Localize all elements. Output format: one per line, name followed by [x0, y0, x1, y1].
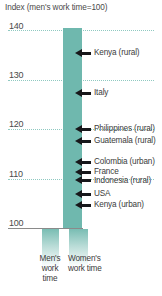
arrow-shaft — [81, 193, 91, 196]
pointer-guatemala-rural — [75, 137, 91, 145]
pointer-usa — [75, 190, 91, 198]
annotation-label-indonesia-rural: Indonesia (rural) — [94, 176, 151, 185]
caption-line: Men's — [34, 254, 66, 264]
work-time-index-chart: Index (men's work time=100) 140 130 120 … — [0, 0, 162, 296]
mens-work-time-caption: Men's work time — [34, 254, 66, 284]
annotation-label-kenya-rural: Kenya (rural) — [94, 48, 139, 57]
tick-label-120: 120 — [9, 119, 23, 129]
arrow-shaft — [81, 140, 91, 143]
pointer-kenya-rural — [75, 49, 91, 57]
tick-label-130: 130 — [9, 70, 23, 80]
arrow-shaft — [81, 161, 91, 164]
tick-label-140: 140 — [9, 21, 23, 31]
annotation-label-colombia-urban: Colombia (urban) — [94, 157, 155, 166]
womens-work-time-caption: Women's work time — [68, 254, 122, 274]
arrow-shaft — [81, 128, 91, 131]
caption-line: Women's — [68, 254, 122, 264]
annotation-label-usa: USA — [94, 189, 110, 198]
caption-line: time — [34, 274, 66, 284]
annotation-label-kenya-urban: Kenya (urban) — [94, 200, 144, 209]
arrow-shaft — [81, 52, 91, 55]
arrow-shaft — [81, 179, 91, 182]
arrow-shaft — [81, 204, 91, 207]
pointer-philippines-rural — [75, 125, 91, 133]
arrow-shaft — [81, 171, 91, 174]
chart-title: Index (men's work time=100) — [5, 3, 107, 12]
pointer-italy — [75, 89, 91, 97]
tick-label-100: 100 — [9, 218, 23, 228]
annotation-label-guatemala-rural: Guatemala (rural) — [94, 136, 156, 145]
annotation-label-france: France — [94, 167, 119, 176]
annotation-label-italy: Italy — [94, 88, 108, 97]
caption-line: work — [34, 264, 66, 274]
pointer-kenya-urban — [75, 201, 91, 209]
annotation-label-philippines-rural: Philippines (rural) — [94, 124, 155, 133]
caption-line: work time — [68, 264, 122, 274]
tick-label-110: 110 — [9, 169, 23, 179]
pointer-indonesia-rural — [75, 176, 91, 184]
pointer-colombia-urban — [75, 158, 91, 166]
arrow-shaft — [81, 92, 91, 95]
pointer-france — [75, 168, 91, 176]
